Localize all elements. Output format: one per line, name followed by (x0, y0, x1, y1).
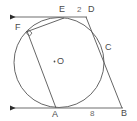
point-label-e: E (59, 5, 65, 14)
geometry-diagram: E 2 D F C O A 8 B (0, 0, 137, 121)
length-label-ed: 2 (77, 6, 81, 14)
center-point-dot (54, 61, 56, 63)
point-label-a: A (52, 110, 58, 119)
segment-fa (27, 31, 56, 108)
geometry-canvas (0, 0, 137, 121)
center-label-o: O (57, 57, 64, 66)
point-label-b: B (121, 109, 127, 118)
length-label-ab: 8 (90, 110, 94, 118)
point-label-d: D (88, 5, 95, 14)
point-label-f: F (15, 23, 21, 32)
point-label-c: C (105, 43, 112, 52)
